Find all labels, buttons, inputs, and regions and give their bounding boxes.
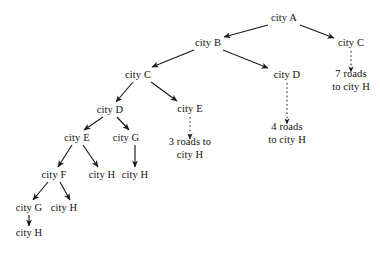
tree-diagram-canvas: city Acity Bcity Ccity Ccity Dcity Ecity… bbox=[0, 0, 380, 255]
tree-node-e_left: city E bbox=[64, 132, 89, 144]
tree-node-d_left: city D bbox=[97, 104, 124, 116]
tree-node-e_mid: city E bbox=[177, 103, 202, 115]
tree-node-g_mid: city G bbox=[113, 132, 140, 144]
edge-d_left-to-g_mid bbox=[117, 117, 129, 130]
tree-node-h_bottom: city H bbox=[51, 202, 78, 214]
tree-node-roads3: 3 roads tocity H bbox=[169, 136, 211, 161]
tree-node-d_right: city D bbox=[274, 69, 301, 81]
edge-d_left-to-e_left bbox=[84, 117, 103, 130]
edge-e_left-to-h_under_e bbox=[83, 145, 98, 167]
tree-node-h_under_g: city H bbox=[122, 169, 149, 181]
edge-e_left-to-f bbox=[58, 145, 72, 167]
edge-b-to-d_right bbox=[223, 50, 268, 68]
edge-a-to-c_right bbox=[300, 25, 334, 38]
tree-node-h_under_e: city H bbox=[89, 169, 116, 181]
tree-node-a: city A bbox=[271, 12, 297, 24]
edge-a-to-b bbox=[224, 25, 268, 37]
tree-edges-layer bbox=[0, 0, 380, 255]
edge-f-to-h_bottom bbox=[60, 182, 70, 200]
tree-node-f: city F bbox=[42, 169, 67, 181]
tree-node-b: city B bbox=[195, 37, 221, 49]
tree-node-c_right: city C bbox=[338, 37, 364, 49]
tree-node-h_last: city H bbox=[16, 227, 43, 239]
tree-node-c_left: city C bbox=[125, 69, 151, 81]
tree-node-g_bottom: city G bbox=[16, 202, 43, 214]
edge-c_left-to-e_mid bbox=[151, 82, 177, 101]
edge-c_left-to-d_left bbox=[116, 82, 133, 102]
tree-node-roads4: 4 roadsto city H bbox=[268, 121, 306, 146]
edge-f-to-g_bottom bbox=[33, 182, 48, 200]
edge-b-to-c_left bbox=[152, 50, 194, 67]
tree-node-roads7: 7 roadsto city H bbox=[332, 68, 370, 93]
